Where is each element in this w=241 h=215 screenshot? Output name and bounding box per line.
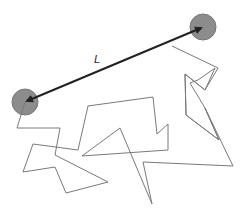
chain-path [17,68,233,204]
distance-label: L [94,53,100,66]
end-to-end-arrow [27,28,201,101]
finish-end-circle [190,14,216,40]
diagram-canvas [0,0,241,215]
